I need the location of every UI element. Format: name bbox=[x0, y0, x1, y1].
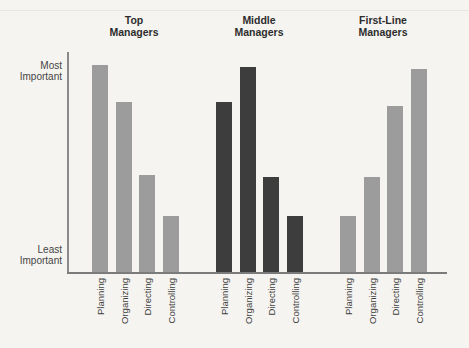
x-label-first-line-organizing: Organizing bbox=[366, 278, 377, 324]
bar-top-planning bbox=[92, 65, 108, 272]
x-label-cell: Planning bbox=[216, 278, 232, 328]
x-label-top-controlling: Controlling bbox=[165, 278, 176, 323]
x-label-cell: Controlling bbox=[411, 278, 427, 328]
x-labels-top-managers: Planning Organizing Directing Controllin… bbox=[92, 278, 179, 328]
bar-first-line-planning bbox=[340, 216, 356, 272]
bar-first-line-controlling bbox=[411, 69, 427, 272]
group-title-line: Managers bbox=[234, 26, 283, 38]
x-label-first-line-planning: Planning bbox=[343, 278, 354, 315]
top-rule-divider bbox=[0, 10, 469, 11]
x-axis-baseline bbox=[67, 272, 447, 274]
x-label-first-line-directing: Directing bbox=[390, 278, 401, 316]
x-label-cell: Organizing bbox=[116, 278, 132, 328]
y-axis-label-line: Most bbox=[40, 60, 62, 71]
x-label-middle-organizing: Organizing bbox=[242, 278, 253, 324]
x-label-cell: Organizing bbox=[364, 278, 380, 328]
bar-top-organizing bbox=[116, 102, 132, 272]
group-title-top-managers: Top Managers bbox=[74, 14, 194, 38]
bar-first-line-directing bbox=[387, 106, 403, 272]
x-labels-middle-managers: Planning Organizing Directing Controllin… bbox=[216, 278, 303, 328]
y-axis-label-most-important: Most Important bbox=[0, 61, 62, 82]
y-axis-label-line: Important bbox=[20, 71, 62, 82]
x-label-top-planning: Planning bbox=[95, 278, 106, 315]
bar-middle-organizing bbox=[240, 67, 256, 272]
bar-top-controlling bbox=[163, 216, 179, 272]
x-label-middle-planning: Planning bbox=[219, 278, 230, 315]
bar-group-middle-managers bbox=[216, 67, 303, 272]
group-title-line: First-Line bbox=[359, 14, 407, 26]
x-label-cell: Planning bbox=[340, 278, 356, 328]
bar-first-line-organizing bbox=[364, 177, 380, 272]
x-labels-first-line-managers: Planning Organizing Directing Controllin… bbox=[340, 278, 427, 328]
y-axis-label-least-important: Least Important bbox=[0, 245, 62, 266]
group-title-middle-managers: Middle Managers bbox=[199, 14, 319, 38]
group-title-line: Middle bbox=[242, 14, 275, 26]
x-label-middle-controlling: Controlling bbox=[289, 278, 300, 323]
y-axis-label-line: Least bbox=[38, 244, 62, 255]
x-label-cell: Directing bbox=[387, 278, 403, 328]
y-axis-label-line: Important bbox=[20, 255, 62, 266]
group-title-line: Top bbox=[125, 14, 143, 26]
group-title-first-line-managers: First-Line Managers bbox=[323, 14, 443, 38]
bar-group-first-line-managers bbox=[340, 69, 427, 272]
x-label-cell: Directing bbox=[263, 278, 279, 328]
x-label-cell: Organizing bbox=[240, 278, 256, 328]
group-title-line: Managers bbox=[358, 26, 407, 38]
x-label-middle-directing: Directing bbox=[266, 278, 277, 316]
bar-middle-planning bbox=[216, 102, 232, 272]
bar-top-directing bbox=[139, 175, 155, 272]
x-label-cell: Planning bbox=[92, 278, 108, 328]
figure-canvas: Top Managers Middle Managers First-Line … bbox=[0, 0, 469, 348]
y-axis-line bbox=[67, 52, 69, 273]
x-label-cell: Directing bbox=[139, 278, 155, 328]
x-label-cell: Controlling bbox=[287, 278, 303, 328]
x-label-top-directing: Directing bbox=[142, 278, 153, 316]
bar-middle-controlling bbox=[287, 216, 303, 272]
x-label-top-organizing: Organizing bbox=[118, 278, 129, 324]
x-label-first-line-controlling: Controlling bbox=[413, 278, 424, 323]
bar-group-top-managers bbox=[92, 65, 179, 272]
group-title-line: Managers bbox=[109, 26, 158, 38]
x-label-cell: Controlling bbox=[163, 278, 179, 328]
bar-middle-directing bbox=[263, 177, 279, 272]
